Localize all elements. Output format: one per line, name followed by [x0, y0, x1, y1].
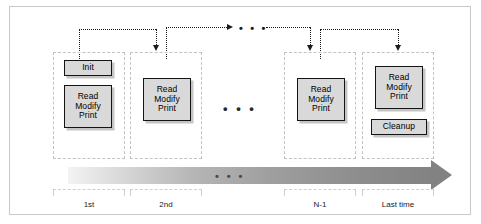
axis-bracket-second: [130, 189, 202, 196]
rmp-line-print: Print: [79, 111, 97, 121]
process-box-init: Init: [64, 60, 112, 76]
iteration-column-last: Read Modify Print Cleanup: [362, 52, 434, 159]
axis-bracket-n-minus-1: [284, 189, 356, 196]
process-box-read-modify-print-3: Read Modify Print: [297, 78, 345, 121]
feedback-arrow-right-mid: [227, 24, 233, 30]
feedback-wire-horizontal-1: [79, 29, 156, 30]
rmp-line-print: Print: [158, 104, 176, 114]
iteration-column-n-minus-1: Read Modify Print: [284, 52, 356, 159]
process-box-cleanup-label: Cleanup: [383, 122, 415, 132]
top-wire-ellipsis: • • •: [239, 23, 268, 34]
iteration-column-first: Init Read Modify Print: [53, 52, 125, 159]
process-box-read-modify-print-2: Read Modify Print: [143, 78, 191, 121]
axis-bracket-last: [362, 189, 434, 196]
process-box-read-modify-print-1: Read Modify Print: [64, 85, 112, 128]
axis-label-second: 2nd: [130, 201, 202, 209]
figure-frame: • • • Init Read Modify Print Read Modi: [9, 6, 471, 215]
time-arrow-ellipsis: • • •: [215, 171, 245, 182]
feedback-wire-drop-3: [310, 27, 311, 47]
between-columns-ellipsis: • • •: [223, 102, 256, 115]
time-arrow-shaft: [68, 167, 433, 184]
feedback-arrow-down-3: [307, 45, 313, 51]
time-arrow-head: [431, 160, 452, 190]
rmp-line-print: Print: [390, 92, 408, 102]
process-box-read-modify-print-4: Read Modify Print: [375, 66, 423, 109]
axis-label-n-minus-1: N-1: [284, 201, 356, 209]
feedback-wire-horizontal-4: [320, 29, 398, 30]
feedback-arrow-down-2: [153, 45, 159, 51]
iteration-column-second: Read Modify Print: [130, 52, 202, 159]
feedback-wire-horizontal-3: [266, 27, 310, 28]
process-box-init-label: Init: [82, 63, 94, 73]
feedback-wire-horizontal-2: [166, 27, 229, 28]
process-box-cleanup: Cleanup: [371, 119, 427, 135]
iteration-lifecycle-figure: • • • Init Read Modify Print Read Modi: [0, 0, 481, 224]
rmp-line-print: Print: [312, 104, 330, 114]
axis-bracket-first: [53, 189, 125, 196]
feedback-arrow-down-4: [395, 45, 401, 51]
axis-label-last: Last time: [362, 201, 434, 209]
axis-label-first: 1st: [53, 201, 125, 209]
